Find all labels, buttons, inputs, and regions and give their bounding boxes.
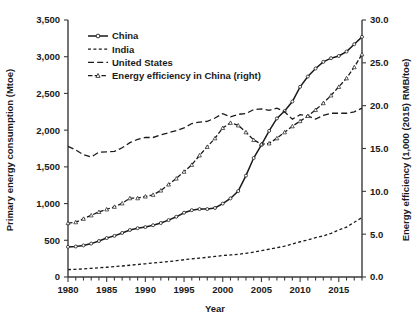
series-marker bbox=[252, 157, 255, 160]
legend-marker bbox=[96, 34, 100, 38]
chart-container: 05001,0001,5002,0002,5003,0003,500 0.05.… bbox=[0, 0, 418, 318]
series-marker bbox=[167, 219, 170, 222]
series-marker bbox=[74, 245, 77, 248]
series-marker bbox=[229, 197, 232, 200]
series-marker bbox=[206, 208, 209, 211]
legend-item-label: China bbox=[112, 30, 139, 41]
series-marker bbox=[353, 43, 356, 46]
series-marker bbox=[67, 245, 70, 248]
series-marker bbox=[361, 35, 364, 38]
series-marker bbox=[105, 237, 108, 240]
chart-background bbox=[0, 0, 418, 318]
x-axis-tick-label: 1985 bbox=[96, 284, 118, 295]
y-axis-right-tick-label: 20.0 bbox=[370, 100, 389, 111]
series-marker bbox=[198, 208, 201, 211]
y-axis-left-title: Primary energy consumption (Mtoe) bbox=[4, 69, 15, 232]
legend-item-label: India bbox=[112, 44, 135, 55]
series-marker bbox=[221, 202, 224, 205]
x-axis-tick-label: 2000 bbox=[212, 284, 233, 295]
y-axis-right-tick-label: 10.0 bbox=[370, 186, 389, 197]
y-axis-left-tick-label: 2,000 bbox=[36, 125, 60, 136]
series-marker bbox=[175, 215, 178, 218]
series-marker bbox=[275, 117, 278, 120]
series-marker bbox=[314, 67, 317, 70]
series-marker bbox=[330, 57, 333, 60]
series-marker bbox=[82, 244, 85, 247]
y-axis-left-tick-label: 500 bbox=[44, 235, 60, 246]
y-axis-left-tick-label: 3,000 bbox=[36, 51, 60, 62]
series-marker bbox=[136, 227, 139, 230]
y-axis-left-tick-label: 2,500 bbox=[36, 88, 60, 99]
series-marker bbox=[128, 229, 131, 232]
series-marker bbox=[144, 226, 147, 229]
series-marker bbox=[337, 54, 340, 57]
series-marker bbox=[306, 75, 309, 78]
x-axis-tick-label: 1995 bbox=[173, 284, 195, 295]
y-axis-left-tick-label: 0 bbox=[55, 271, 60, 282]
series-marker bbox=[190, 209, 193, 212]
x-axis-tick-label: 2015 bbox=[328, 284, 350, 295]
x-axis-title: Year bbox=[205, 303, 225, 314]
y-axis-right-tick-label: 5.0 bbox=[370, 229, 383, 240]
series-marker bbox=[113, 234, 116, 237]
y-axis-right-tick-label: 15.0 bbox=[370, 143, 389, 154]
series-marker bbox=[90, 242, 93, 245]
series-marker bbox=[183, 211, 186, 214]
y-axis-right-tick-label: 25.0 bbox=[370, 57, 389, 68]
series-marker bbox=[237, 190, 240, 193]
series-marker bbox=[121, 231, 124, 234]
x-axis-tick-label: 1980 bbox=[57, 284, 78, 295]
series-marker bbox=[214, 206, 217, 209]
series-marker bbox=[299, 85, 302, 88]
series-marker bbox=[97, 240, 100, 243]
series-marker bbox=[244, 174, 247, 177]
series-marker bbox=[291, 100, 294, 103]
y-axis-right-title: Energy efficiency (1,000 (2015) RMB/toe) bbox=[400, 59, 411, 242]
legend-item-label: Energy efficiency in China (right) bbox=[112, 70, 261, 81]
legend-item-label: United States bbox=[112, 57, 173, 68]
y-axis-right-tick-label: 30.0 bbox=[370, 14, 389, 25]
y-axis-left-tick-label: 1,500 bbox=[36, 161, 60, 172]
x-axis-tick-label: 2010 bbox=[290, 284, 311, 295]
y-axis-right-tick-label: 0.0 bbox=[370, 271, 383, 282]
series-marker bbox=[159, 222, 162, 225]
x-axis-tick-label: 1990 bbox=[135, 284, 156, 295]
series-marker bbox=[268, 129, 271, 132]
x-axis-tick-label: 2005 bbox=[251, 284, 273, 295]
y-axis-left-tick-label: 3,500 bbox=[36, 14, 60, 25]
energy-consumption-line-chart: 05001,0001,5002,0002,5003,0003,500 0.05.… bbox=[0, 0, 418, 318]
series-marker bbox=[345, 50, 348, 53]
series-marker bbox=[152, 224, 155, 227]
y-axis-left-tick-label: 1,000 bbox=[36, 198, 60, 209]
series-marker bbox=[322, 60, 325, 63]
